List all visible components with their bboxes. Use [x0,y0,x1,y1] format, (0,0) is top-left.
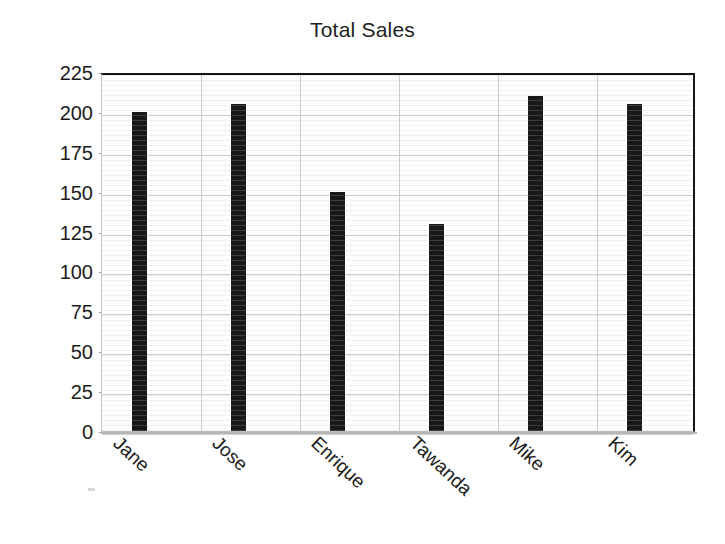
gridline-horizontal [102,155,693,156]
gridline-vertical [597,75,598,431]
y-axis-tick-label: 125 [7,223,93,243]
y-axis-tick-label: 75 [7,302,93,322]
scan-artifact [88,488,95,491]
bar [231,104,246,431]
x-axis-tick-label: Mike [505,433,548,475]
x-axis: JaneJoseEnriqueTawandaMikeKim [101,433,695,533]
y-axis-tick-label: 25 [7,382,93,402]
bar [132,112,147,431]
y-axis-tick-label: 50 [7,342,93,362]
x-axis-tick-label: Jane [109,433,153,476]
gridline-vertical [201,75,202,431]
y-axis-tick-label: 175 [7,143,93,163]
gridline-horizontal [102,354,693,355]
x-axis-tick-label: Jose [208,433,251,475]
x-axis-tick-label: Tawanda [406,433,475,500]
gridline-vertical [498,75,499,431]
gridline-horizontal [102,235,693,236]
x-axis-tick-label: Kim [604,433,642,470]
bar [528,96,543,431]
y-axis-tick-label: 0 [7,422,93,442]
bar [429,224,444,431]
bar [627,104,642,431]
gridline-horizontal [102,115,693,116]
x-axis-tick-label: Enrique [307,433,369,492]
chart-title: Total Sales [0,18,725,42]
bar [330,192,345,431]
y-axis-tick-label: 100 [7,262,93,282]
gridline-horizontal [102,195,693,196]
gridline-vertical [399,75,400,431]
y-axis-tick-label: 150 [7,183,93,203]
scan-texture [102,75,693,431]
y-axis-tick-label: 200 [7,103,93,123]
gridline-horizontal [102,274,693,275]
y-axis: 2252001751501251007550250 [0,73,93,432]
gridline-horizontal [102,394,693,395]
gridline-horizontal [102,314,693,315]
y-axis-tick-label: 225 [7,63,93,83]
plot-area [101,73,695,432]
bar-chart-figure: Total Sales 2252001751501251007550250 Ja… [0,0,725,544]
gridline-vertical [300,75,301,431]
